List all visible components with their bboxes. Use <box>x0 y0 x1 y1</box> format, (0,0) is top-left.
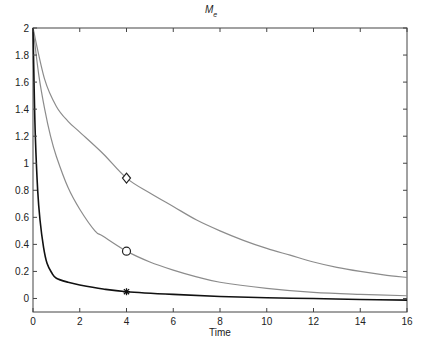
y-tick-label: 0 <box>23 293 29 304</box>
chart-title: Me <box>205 4 217 18</box>
y-tick-label: 0.2 <box>15 266 29 277</box>
y-tick-label: 2 <box>23 23 29 34</box>
y-tick-label: 0.8 <box>15 185 29 196</box>
x-tick-label: 2 <box>77 316 83 327</box>
x-tick-label: 10 <box>261 316 273 327</box>
line-chart: 024681012141600.20.40.60.811.21.41.61.82… <box>0 0 424 349</box>
y-tick-label: 0.6 <box>15 212 29 223</box>
x-tick-label: 16 <box>401 316 413 327</box>
x-tick-label: 12 <box>308 316 320 327</box>
x-axis-label: Time <box>209 327 231 338</box>
x-tick-label: 4 <box>124 316 130 327</box>
y-tick-label: 1.6 <box>15 77 29 88</box>
x-tick-label: 8 <box>217 316 223 327</box>
x-tick-label: 6 <box>170 316 176 327</box>
y-tick-label: 1 <box>23 158 29 169</box>
y-tick-label: 1.2 <box>15 131 29 142</box>
star-marker-icon <box>123 288 130 295</box>
y-tick-label: 1.4 <box>15 104 29 115</box>
x-tick-label: 14 <box>355 316 367 327</box>
y-tick-label: 1.8 <box>15 50 29 61</box>
y-tick-label: 0.4 <box>15 239 29 250</box>
circle-marker-icon <box>123 247 131 255</box>
x-tick-label: 0 <box>30 316 36 327</box>
